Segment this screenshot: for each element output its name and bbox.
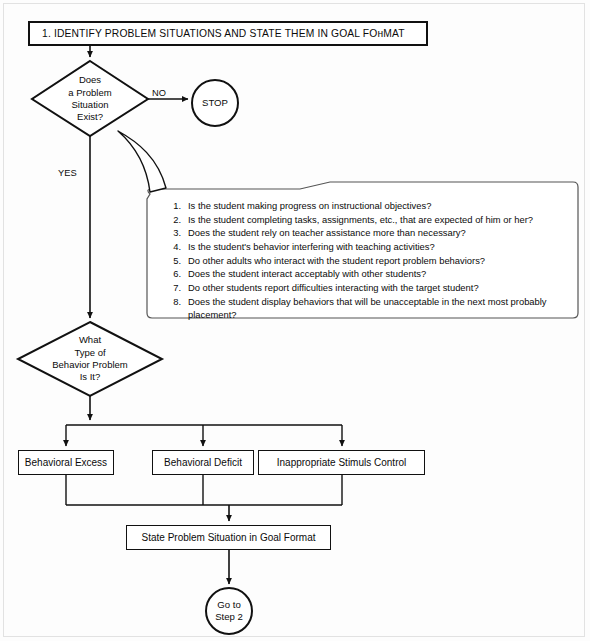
list-item-number: 3. [165, 226, 188, 239]
goal-format-box: State Problem Situation in Goal Format [126, 525, 331, 550]
list-item: 6. Does the student interact acceptably … [165, 267, 569, 280]
list-item-number: 6. [165, 267, 188, 280]
outcome-box-behavioral-deficit-label: Behavioral Deficit [164, 457, 242, 468]
edge-label-no: NO [152, 88, 166, 98]
list-item: 8. Does the student display behaviors th… [165, 295, 569, 321]
title-box: 1. IDENTIFY PROBLEM SITUATIONS AND STATE… [28, 21, 428, 46]
flowchart-page: 1. IDENTIFY PROBLEM SITUATIONS AND STATE… [0, 0, 590, 641]
decision-1-line-1: Does [79, 74, 101, 86]
decision-1-line-3: Situation [72, 99, 109, 111]
decision-2-line-2: Type of [74, 347, 105, 359]
outcome-box-behavioral-excess: Behavioral Excess [18, 450, 114, 475]
outcome-box-behavioral-deficit: Behavioral Deficit [152, 450, 254, 475]
list-item-text: Does the student rely on teacher assista… [188, 226, 569, 239]
list-item-text: Is the student completing tasks, assignm… [188, 213, 569, 226]
list-item-number: 2. [165, 213, 188, 226]
stop-label-text: STOP [202, 97, 228, 109]
callout-question-list: 1. Is the student making progress on ins… [165, 199, 569, 322]
list-item-text: Does the student display behaviors that … [188, 295, 569, 321]
stop-label: STOP [188, 84, 242, 122]
decision-1-label: Does a Problem Situation Exist? [40, 70, 140, 128]
list-item-number: 7. [165, 281, 188, 294]
list-item-number: 1. [165, 199, 188, 212]
list-item-number: 5. [165, 254, 188, 267]
title-box-label: 1. IDENTIFY PROBLEM SITUATIONS AND STATE… [42, 28, 405, 39]
goto-step2-label: Go to Step 2 [205, 592, 253, 630]
list-item-text: Does the student interact acceptably wit… [188, 267, 569, 280]
outcome-box-inappropriate-stimulus-control-label: Inappropriate Stimuls Control [277, 457, 407, 468]
list-item: 2. Is the student completing tasks, assi… [165, 213, 569, 226]
list-item-number: 8. [165, 295, 188, 321]
list-item-text: Is the student making progress on instru… [188, 199, 569, 212]
goto-step2-line-2: Step 2 [215, 611, 243, 623]
decision-1-line-2: a Problem [68, 87, 111, 99]
outcome-box-inappropriate-stimulus-control: Inappropriate Stimuls Control [258, 450, 425, 475]
list-item: 7. Do other students report difficulties… [165, 281, 569, 294]
decision-2-label: What Type of Behavior Problem Is It? [18, 330, 162, 388]
decision-1-line-4: Exist? [77, 111, 103, 123]
list-item: 4. Is the student's behavior interfering… [165, 240, 569, 253]
decision-2-line-1: What [79, 334, 101, 346]
edge-label-yes: YES [58, 168, 77, 178]
goto-step2-line-1: Go to [217, 599, 240, 611]
list-item: 3. Does the student rely on teacher assi… [165, 226, 569, 239]
list-item-text: Is the student's behavior interfering wi… [188, 240, 569, 253]
outcome-box-behavioral-excess-label: Behavioral Excess [25, 457, 107, 468]
goal-format-box-label: State Problem Situation in Goal Format [142, 532, 316, 543]
list-item-text: Do other students report difficulties in… [188, 281, 569, 294]
callout-pointer-tail [118, 131, 166, 192]
list-item-text: Do other adults who interact with the st… [188, 254, 569, 267]
decision-2-line-4: Is It? [80, 371, 101, 383]
decision-2-line-3: Behavior Problem [52, 359, 128, 371]
list-item: 1. Is the student making progress on ins… [165, 199, 569, 212]
callout-balloon: 1. Is the student making progress on ins… [145, 188, 578, 319]
list-item-number: 4. [165, 240, 188, 253]
list-item: 5. Do other adults who interact with the… [165, 254, 569, 267]
